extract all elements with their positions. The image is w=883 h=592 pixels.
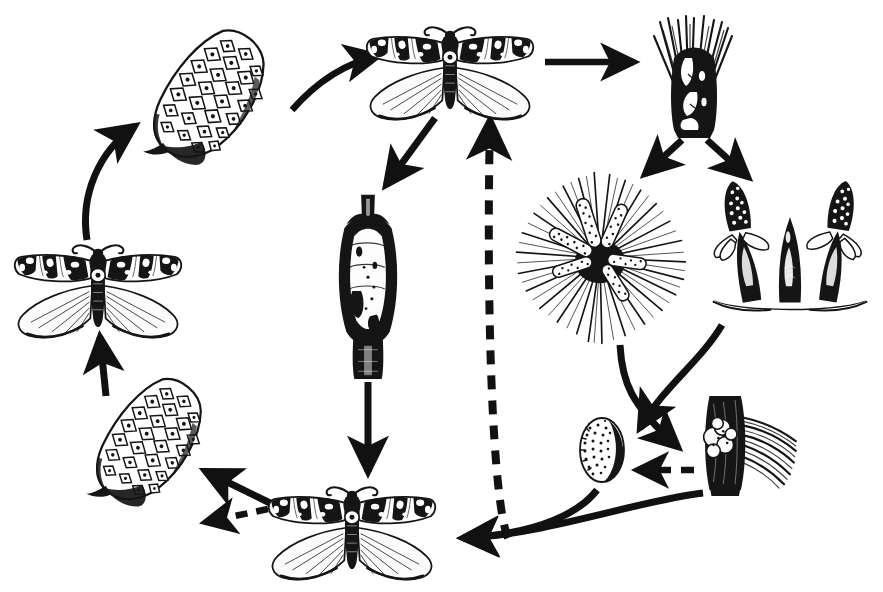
arrow-moth-top-to-larva-twig: [386, 118, 435, 185]
arrow-shoot-to-needle-cluster: [645, 140, 682, 174]
adult-moth-bottom: [269, 487, 435, 579]
arrow-moth-bottom-to-cone-dashed: [206, 509, 268, 522]
diagram-canvas: [0, 0, 883, 592]
figure-layer: [15, 15, 872, 579]
resin-mass-on-bark: [704, 396, 796, 496]
egg-or-cocoon: [580, 418, 624, 482]
arrow-needle-cluster-to-resin: [620, 345, 678, 447]
infested-shoot-top-right: [654, 16, 732, 138]
arrow-cone-bottom-to-moth-left: [100, 337, 106, 396]
pine-cone-infested-top: [128, 15, 286, 190]
larva-in-bud-on-twig: [339, 195, 397, 379]
arrow-moth-bottom-to-cone-bottom: [205, 471, 270, 503]
pine-needle-cluster-with-male-cones: [517, 173, 686, 344]
pine-cone-infested-bottom: [73, 365, 223, 531]
young-conelets-cluster: [703, 177, 871, 311]
arrow-bottom-to-moth-top-dashed: [489, 122, 508, 538]
arrow-cone-to-moth-top: [292, 56, 378, 110]
adult-moth-left: [15, 245, 181, 337]
arrow-shoot-to-conelets: [707, 140, 748, 177]
adult-moth-top: [367, 27, 533, 119]
arrow-moth-left-to-cone-top: [86, 126, 135, 240]
life-cycle-diagram: Pine cone moth life cycle cycle-diagram …: [0, 0, 883, 592]
